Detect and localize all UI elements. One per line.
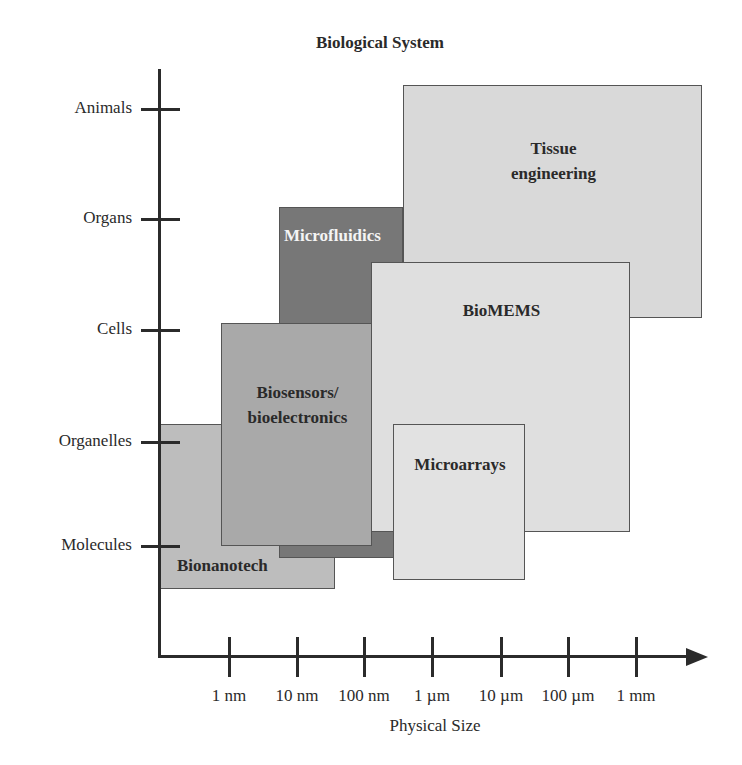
region-biosensors-label-1: Biosensors/	[222, 381, 373, 405]
x-label-100nm: 100 nm	[338, 686, 389, 706]
x-label-100um: 100 µm	[542, 686, 595, 706]
y-label-organelles: Organelles	[59, 431, 132, 451]
x-axis-line	[158, 655, 690, 658]
x-tick-10um	[500, 637, 503, 677]
y-tick-cells	[141, 329, 180, 332]
y-label-molecules: Molecules	[61, 535, 132, 555]
region-tissue-label-1: Tissue	[404, 137, 703, 161]
region-biosensors-label-2: bioelectronics	[222, 406, 373, 430]
region-tissue-label-2: engineering	[404, 162, 703, 186]
y-tick-organs	[141, 218, 180, 221]
y-tick-organelles	[141, 441, 180, 444]
y-tick-molecules	[141, 545, 180, 548]
region-microarrays: Microarrays	[393, 424, 525, 580]
x-label-10um: 10 µm	[479, 686, 523, 706]
region-biomems-label: BioMEMS	[372, 299, 631, 323]
x-tick-1nm	[228, 637, 231, 677]
x-label-1nm: 1 nm	[212, 686, 246, 706]
y-label-animals: Animals	[74, 98, 132, 118]
y-label-cells: Cells	[97, 319, 132, 339]
x-tick-100nm	[363, 637, 366, 677]
y-axis-line	[158, 69, 161, 658]
diagram-title-text: Biological System	[316, 33, 444, 53]
x-axis-title: Physical Size	[389, 716, 480, 736]
x-label-10nm: 10 nm	[276, 686, 319, 706]
y-label-organs: Organs	[83, 208, 132, 228]
region-microfluidics-label: Microfluidics	[284, 224, 381, 248]
region-bionanotech-label: Bionanotech	[177, 554, 268, 578]
x-label-1mm: 1 mm	[616, 686, 655, 706]
y-tick-animals	[141, 108, 180, 111]
region-biosensors: Biosensors/ bioelectronics	[221, 323, 372, 546]
x-axis-arrow-icon	[686, 648, 708, 666]
x-tick-10nm	[296, 637, 299, 677]
x-tick-100um	[567, 637, 570, 677]
x-tick-1mm	[635, 637, 638, 677]
x-tick-1um	[431, 637, 434, 677]
x-label-1um: 1 µm	[414, 686, 450, 706]
region-microarrays-label: Microarrays	[394, 453, 526, 477]
